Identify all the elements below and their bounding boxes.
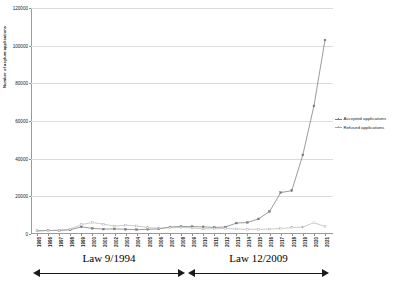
x-axis-tick <box>126 234 127 236</box>
x-axis-tick <box>270 234 271 236</box>
x-axis-tick <box>236 234 237 236</box>
y-axis-tick-label: 60000 <box>15 119 28 124</box>
series-marker <box>269 228 271 230</box>
series-marker <box>69 228 71 230</box>
x-axis-tick-label: 2017 <box>280 237 285 247</box>
x-axis-tick <box>259 234 260 236</box>
x-axis-tick-label: 1995 <box>36 237 41 247</box>
law-period-label: Law 12/2009 <box>188 252 329 264</box>
x-axis-tick <box>59 234 60 236</box>
x-axis-tick <box>37 234 38 236</box>
chart-container: Number of asylum applications 0200004000… <box>0 0 400 293</box>
x-axis-tick-label: 2016 <box>269 237 274 247</box>
series-marker <box>136 229 138 231</box>
series-marker <box>313 222 315 224</box>
law-period-arrow-line <box>194 273 323 274</box>
x-axis-tick <box>281 234 282 236</box>
series-marker <box>91 222 93 224</box>
y-axis-tick-label: 100000 <box>13 43 28 48</box>
arrow-head-right-icon <box>322 269 329 277</box>
x-axis-tick <box>203 234 204 236</box>
plot-area: 020000400006000080000100000120000 199519… <box>31 8 333 234</box>
x-axis-tick <box>103 234 104 236</box>
x-axis-tick <box>81 234 82 236</box>
x-axis-tick-label: 2012 <box>225 237 230 247</box>
x-axis-tick <box>92 234 93 236</box>
x-axis-tick-label: 2007 <box>169 237 174 247</box>
x-axis-tick-label: 2011 <box>214 237 219 247</box>
series-marker <box>114 225 116 227</box>
series-marker <box>125 224 127 226</box>
series-marker <box>302 226 304 228</box>
arrow-head-left-icon <box>33 269 40 277</box>
x-axis-tick-label: 1998 <box>70 237 75 247</box>
x-axis-tick <box>181 234 182 236</box>
series-marker <box>158 227 160 229</box>
x-axis-tick <box>148 234 149 236</box>
series-marker <box>324 39 326 41</box>
y-axis-tick-label: 80000 <box>15 81 28 86</box>
series-marker <box>80 226 82 228</box>
series-marker <box>280 228 282 230</box>
arrow-head-left-icon <box>188 269 195 277</box>
series-marker <box>180 227 182 229</box>
x-axis-tick <box>48 234 49 236</box>
x-axis-tick <box>192 234 193 236</box>
x-axis-tick-label: 2008 <box>180 237 185 247</box>
series-marker <box>191 227 193 229</box>
series-layer <box>31 8 333 234</box>
series-marker <box>302 154 304 156</box>
legend-item[interactable]: Refused applications <box>335 125 386 130</box>
series-marker <box>235 228 237 230</box>
x-axis-tick <box>225 234 226 236</box>
y-axis-title: Number of asylum applications <box>2 0 7 88</box>
x-axis-tick <box>137 234 138 236</box>
legend-swatch <box>335 125 342 130</box>
law-period-annotations: Law 9/1994Law 12/2009 <box>31 252 333 288</box>
x-axis-tick-label: 2015 <box>258 237 263 247</box>
y-axis-tick-label: 120000 <box>13 6 28 11</box>
x-axis-tick <box>292 234 293 236</box>
x-axis-tick <box>325 234 326 236</box>
series-marker <box>280 192 282 194</box>
legend-label: Refused applications <box>344 126 385 130</box>
series-marker <box>235 222 237 224</box>
x-axis-tick-label: 2005 <box>147 237 152 247</box>
series-marker <box>58 229 60 231</box>
series-marker <box>136 225 138 227</box>
y-axis-tick-label: 40000 <box>15 156 28 161</box>
x-axis-tick-label: 2006 <box>158 237 163 247</box>
series-marker <box>114 228 116 230</box>
series-marker <box>36 230 38 232</box>
series-marker <box>224 228 226 230</box>
x-axis-tick <box>314 234 315 236</box>
series-marker <box>103 228 105 230</box>
x-axis-tick-label: 2021 <box>324 237 329 247</box>
series-line <box>37 40 325 231</box>
y-axis-tick-label: 20000 <box>15 194 28 199</box>
x-axis-tick-label: 2001 <box>103 237 108 247</box>
x-axis-tick-label: 2010 <box>202 237 207 247</box>
series-marker <box>202 228 204 230</box>
series-marker <box>291 227 293 229</box>
x-axis-tick-label: 1996 <box>47 237 52 247</box>
x-axis-tick-label: 2013 <box>236 237 241 247</box>
legend-item[interactable]: Accepted applications <box>335 117 386 122</box>
series-marker <box>247 222 249 224</box>
series-marker <box>269 211 271 213</box>
y-axis-tick <box>29 234 31 235</box>
x-axis-tick-label: 2003 <box>125 237 130 247</box>
arrow-head-right-icon <box>178 269 185 277</box>
x-axis-tick-label: 2018 <box>291 237 296 247</box>
x-axis-tick <box>159 234 160 236</box>
series-marker <box>47 230 49 232</box>
legend-swatch <box>335 117 342 122</box>
x-axis-tick-label: 2004 <box>136 237 141 247</box>
series-marker <box>80 224 82 226</box>
series-marker <box>202 226 204 228</box>
legend: Accepted applicationsRefused application… <box>335 117 386 134</box>
x-axis-tick <box>70 234 71 236</box>
x-axis-tick-label: 1999 <box>81 237 86 247</box>
series-marker <box>125 228 127 230</box>
x-axis-tick <box>115 234 116 236</box>
